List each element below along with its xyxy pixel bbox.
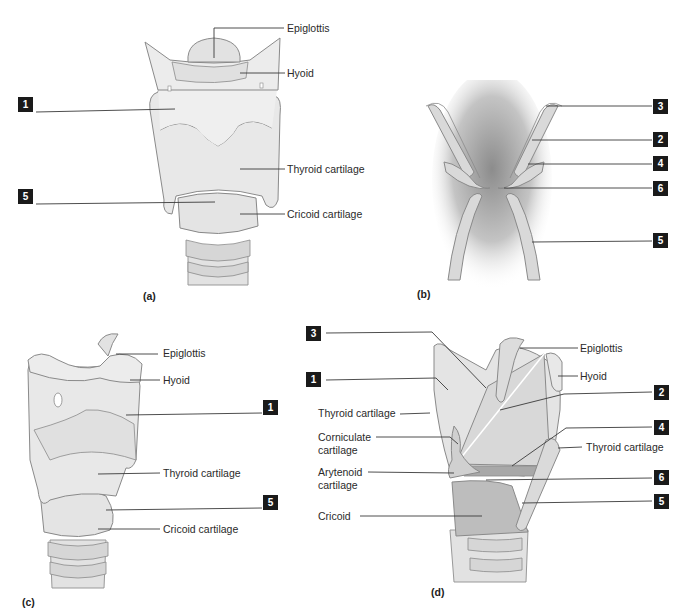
badge-3: 3 xyxy=(306,326,321,341)
panel-c-lateral-view: Epiglottis Hyoid Thyroid cartilage Crico… xyxy=(0,320,300,616)
badge-5: 5 xyxy=(653,233,668,248)
label-thyroid-cartilage: Thyroid cartilage xyxy=(287,163,365,175)
label-hyoid: Hyoid xyxy=(163,374,190,386)
larynx-lateral-illustration xyxy=(0,320,300,616)
label-hyoid: Hyoid xyxy=(287,67,314,79)
badge-1: 1 xyxy=(18,97,33,112)
badge-5: 5 xyxy=(654,494,669,509)
caption-c: (c) xyxy=(22,596,35,608)
caption-d: (d) xyxy=(431,586,444,598)
badge-2: 2 xyxy=(654,385,669,400)
badge-3: 3 xyxy=(653,99,668,114)
label-thyroid-cartilage-right: Thyroid cartilage xyxy=(586,441,664,453)
caption-a: (a) xyxy=(143,290,156,302)
label-cricoid-cartilage: Cricoid cartilage xyxy=(287,208,362,220)
badge-2: 2 xyxy=(653,132,668,147)
caption-b: (b) xyxy=(417,288,430,300)
badge-4: 4 xyxy=(653,156,668,171)
badge-5: 5 xyxy=(263,495,278,510)
label-epiglottis: Epiglottis xyxy=(580,342,623,354)
panel-b-coronal-section: 3 2 4 6 5 (b) xyxy=(400,80,693,310)
label-hyoid: Hyoid xyxy=(580,370,607,382)
label-arytenoid-cartilage-line1: Arytenoid xyxy=(318,466,362,478)
badge-1: 1 xyxy=(306,372,321,387)
label-epiglottis: Epiglottis xyxy=(163,347,206,359)
badge-1: 1 xyxy=(263,400,278,415)
label-corniculate-cartilage-line2: cartilage xyxy=(318,444,358,456)
badge-6: 6 xyxy=(654,470,669,485)
label-epiglottis: Epiglottis xyxy=(287,22,330,34)
label-cricoid: Cricoid xyxy=(318,510,351,522)
badge-6: 6 xyxy=(653,181,668,196)
panel-a-anterior-view: Epiglottis Hyoid Thyroid cartilage Crico… xyxy=(0,0,360,310)
badge-4: 4 xyxy=(654,420,669,435)
label-thyroid-cartilage: Thyroid cartilage xyxy=(163,467,241,479)
label-thyroid-cartilage-left: Thyroid cartilage xyxy=(318,407,396,419)
label-arytenoid-cartilage-line2: cartilage xyxy=(318,479,358,491)
label-corniculate-cartilage-line1: Corniculate xyxy=(318,431,371,443)
label-cricoid-cartilage: Cricoid cartilage xyxy=(163,523,238,535)
badge-5: 5 xyxy=(18,189,33,204)
larynx-coronal-section-illustration xyxy=(400,80,693,310)
larynx-sagittal-illustration xyxy=(290,310,693,616)
panel-d-sagittal-section: 3 1 2 4 6 5 Epiglottis Hyoid Thyroid car… xyxy=(290,310,693,616)
larynx-anterior-illustration xyxy=(0,0,360,310)
